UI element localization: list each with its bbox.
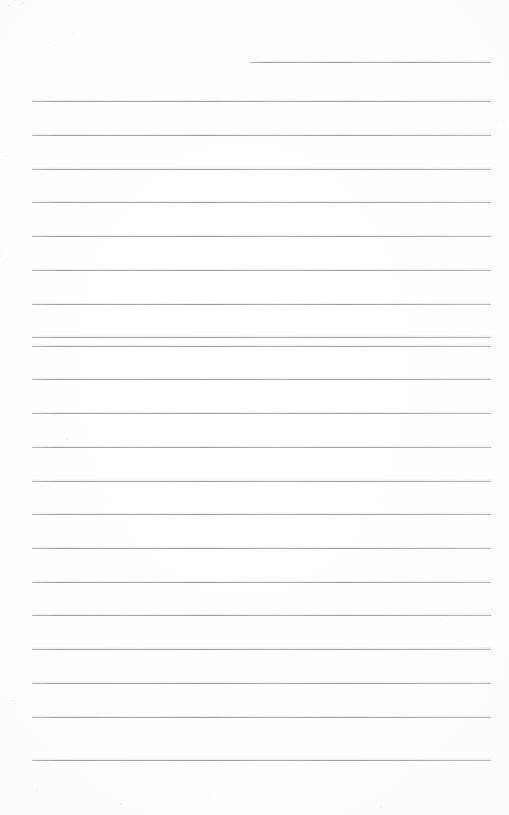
writing-area[interactable] (0, 0, 509, 815)
rule-4 (32, 202, 491, 203)
rule-12 (32, 447, 491, 448)
rule-11 (32, 413, 491, 414)
rule-19 (32, 683, 491, 684)
rule-21 (32, 760, 491, 761)
rule-13 (32, 481, 491, 482)
rule-5 (32, 236, 491, 237)
header-rule (250, 62, 491, 63)
rule-7 (32, 304, 491, 305)
rule-18 (32, 649, 491, 650)
rule-9 (32, 346, 491, 347)
rule-6 (32, 270, 491, 271)
rule-16 (32, 582, 491, 583)
rule-10 (32, 379, 491, 380)
rule-14 (32, 514, 491, 515)
rule-20 (32, 717, 491, 718)
rule-1 (32, 101, 491, 102)
rule-8 (32, 337, 491, 338)
rule-17 (32, 615, 491, 616)
scanned-lined-page (0, 0, 509, 815)
rule-15 (32, 548, 491, 549)
rule-3 (32, 169, 491, 170)
rule-2 (32, 135, 491, 136)
